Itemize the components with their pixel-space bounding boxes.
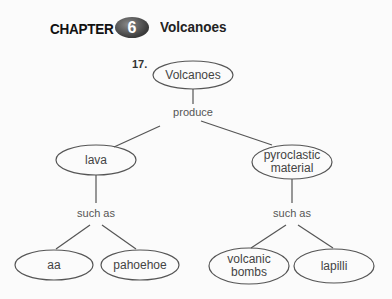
concept-map-lines (0, 0, 392, 299)
node-pahoehoe: pahoehoe (113, 259, 166, 272)
link-produce: produce (173, 106, 213, 118)
node-volcanoes: Volcanoes (165, 69, 220, 82)
node-aa: aa (47, 259, 60, 272)
node-lava: lava (85, 154, 107, 167)
node-pyroclastic-material: pyroclastic material (264, 149, 321, 175)
node-lapilli: lapilli (321, 260, 348, 273)
node-volcanic-bombs: volcanic bombs (227, 253, 270, 279)
link-such-as-lava: such as (77, 207, 115, 219)
link-such-as-pyroclastic: such as (273, 207, 311, 219)
node-pyroclastic-line-2: material (264, 162, 321, 175)
node-volcanic-bombs-line-2: bombs (227, 266, 270, 279)
